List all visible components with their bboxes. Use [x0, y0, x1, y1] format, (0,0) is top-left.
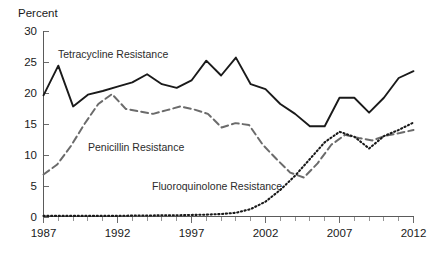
y-tick-label: 0	[31, 211, 37, 223]
y-tick-label: 5	[31, 180, 37, 192]
x-tick-label: 2007	[327, 227, 353, 239]
x-tick-label: 1992	[105, 227, 131, 239]
x-tick-label: 2002	[253, 227, 279, 239]
chart-container: Percent 051015202530 1987199219972002200…	[0, 0, 439, 254]
y-tick-label: 20	[24, 87, 37, 99]
series-line-tetracycline	[44, 58, 414, 127]
y-tick-label: 25	[24, 56, 37, 68]
y-axis-tick-labels: 051015202530	[24, 25, 37, 223]
x-tick-label: 2012	[401, 227, 427, 239]
y-tick-label: 10	[24, 149, 37, 161]
series-line-penicillin	[44, 94, 414, 177]
x-axis-tick-marks	[44, 217, 414, 223]
series-label-fluoroquinolone: Fluoroquinolone Resistance	[152, 180, 282, 192]
y-axis-title: Percent	[18, 7, 58, 19]
series-line-fluoroquinolone	[44, 123, 414, 216]
line-chart: Percent 051015202530 1987199219972002200…	[0, 0, 439, 254]
series-label-tetracycline: Tetracycline Resistance	[58, 48, 168, 60]
series-label-penicillin: Penicillin Resistance	[88, 141, 184, 153]
y-tick-label: 30	[24, 25, 37, 37]
x-tick-label: 1987	[31, 227, 57, 239]
y-tick-label: 15	[24, 118, 37, 130]
x-axis-tick-labels: 198719921997200220072012	[31, 227, 427, 239]
y-axis-tick-marks	[44, 32, 49, 218]
x-tick-label: 1997	[179, 227, 205, 239]
